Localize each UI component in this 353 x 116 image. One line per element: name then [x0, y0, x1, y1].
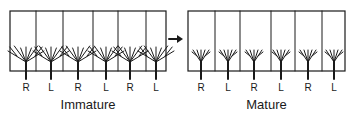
arrow-right-icon [177, 35, 183, 43]
eye-label-r: R [126, 83, 133, 93]
mature-caption: Mature [246, 98, 286, 111]
axon-branch [51, 46, 63, 62]
immature-caption: Immature [61, 98, 116, 111]
immature-box [10, 11, 166, 71]
eye-label-l: L [48, 83, 54, 93]
eye-label-l: L [103, 83, 109, 93]
eye-label-r: R [250, 83, 257, 93]
axon-branch [118, 46, 130, 62]
eye-label-r: R [304, 83, 311, 93]
eye-label-l: L [278, 83, 284, 93]
axon-branch [14, 46, 26, 62]
eye-label-r: R [74, 83, 81, 93]
axon-branch [78, 46, 90, 62]
axon-branch [66, 46, 78, 62]
mature-box [188, 11, 345, 71]
eye-label-r: R [22, 83, 29, 93]
eye-label-l: L [331, 83, 337, 93]
eye-label-r: R [197, 83, 204, 93]
axon-branch [94, 46, 106, 62]
eye-label-l: L [225, 83, 231, 93]
axon-branch [39, 46, 51, 62]
axon-branch [106, 46, 118, 62]
axon-branch [130, 46, 142, 62]
eye-label-l: L [153, 83, 159, 93]
ocular-dominance-diagram [0, 0, 353, 116]
